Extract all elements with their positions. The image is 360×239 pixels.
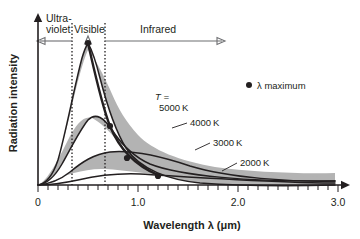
temperature-label-2000K: 2000 K	[240, 157, 270, 168]
chart-background	[0, 0, 360, 239]
temperature-label-3000K: 3000 K	[213, 137, 243, 148]
x-axis-title: Wavelength λ (μm)	[143, 219, 241, 231]
y-axis-title: Radiation intensity	[7, 53, 19, 152]
temperature-label-5000K: 5000 K	[159, 102, 189, 113]
lambda-max-dot-4000K	[107, 123, 113, 129]
x-tick-label-3: 3.0	[331, 196, 346, 208]
region-label-infrared: Infrared	[140, 23, 176, 35]
lambda-max-dot-3000K	[124, 155, 130, 161]
temperature-label-4000K: 4000 K	[190, 117, 220, 128]
legend-label: λ maximum	[257, 80, 306, 91]
temperature-equals-annotation: T =	[155, 91, 169, 102]
x-tick-label-2: 2.0	[231, 196, 246, 208]
x-tick-label-1: 1.0	[131, 196, 146, 208]
lambda-max-dot-5000K	[85, 40, 91, 46]
x-tick-label-0: 0	[35, 196, 41, 208]
blackbody-radiation-chart: Ultra- violet Visible Infrared T = 5000 …	[0, 0, 360, 239]
region-label-ultraviolet-line2: violet	[46, 23, 71, 35]
region-label-visible: Visible	[74, 23, 105, 35]
lambda-max-dot-2000K	[155, 173, 161, 179]
legend-marker-dot-icon	[246, 82, 252, 88]
